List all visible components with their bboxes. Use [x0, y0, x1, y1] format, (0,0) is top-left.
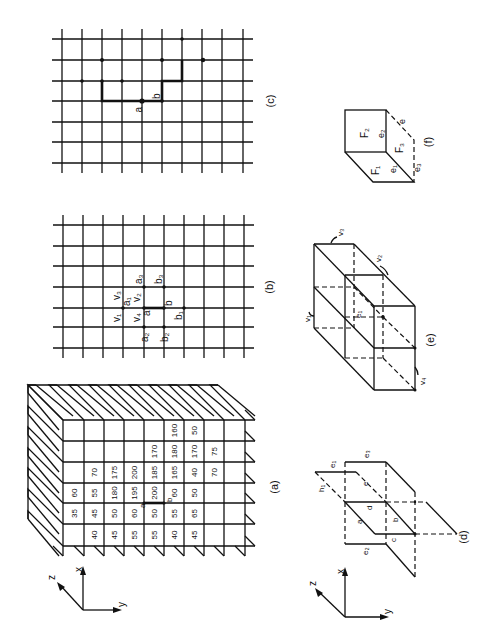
panel-c-grid-path: a b (c)	[52, 29, 276, 173]
panel-d-axis-z-label: z	[307, 581, 318, 586]
panel-a-axis-y-label: y	[116, 602, 127, 607]
panel-a-caption: (a)	[268, 480, 280, 493]
cell-value: 50	[150, 509, 159, 518]
panel-f-label-e1: e₁	[388, 165, 398, 173]
panel-e-label-v2: v₂	[374, 255, 383, 262]
fin	[194, 546, 204, 556]
panel-c-dots	[80, 37, 205, 103]
panel-b-grid-lines	[53, 215, 254, 358]
fin	[74, 546, 84, 556]
cell-value: 160	[170, 423, 179, 437]
cell-value: 70	[90, 468, 99, 477]
panel-f-label-F1: F₁	[370, 165, 381, 175]
cell-value: 50	[110, 509, 119, 518]
panel-b-label-a2: a₂	[139, 332, 150, 342]
cell-value: 180	[170, 444, 179, 458]
panel-d-label-b: b	[391, 517, 400, 522]
panel-e-voxel-block: v₃ v₂ v₁ e₁ v₄ (e)	[303, 229, 436, 392]
panel-a-label-b: b	[165, 497, 174, 502]
cell-value: 70	[210, 468, 219, 477]
panel-b-label-a1: a₁	[121, 296, 132, 306]
cell-value: 55	[170, 509, 179, 518]
fin	[134, 546, 144, 556]
cell-value: 185	[150, 465, 159, 479]
panel-f-caption: (f)	[422, 137, 434, 147]
panel-a-grid-values: 6035705545401751805045200195605517018520…	[28, 385, 280, 613]
panel-d-axes: x y z	[307, 567, 393, 620]
cell-value: 55	[130, 530, 139, 539]
cell-value: 55	[90, 488, 99, 497]
fin	[235, 546, 245, 556]
cell-value: 60	[70, 488, 79, 497]
cell-value: 40	[190, 468, 199, 477]
fin	[245, 536, 255, 546]
panel-b-label-b1: b₁	[173, 310, 184, 320]
panel-c-label-b: b	[151, 93, 162, 99]
panel-e-label-v4: v₄	[418, 378, 427, 385]
fin	[154, 546, 164, 556]
cell-value: 35	[70, 509, 79, 518]
fin	[245, 431, 255, 441]
panel-d-axis-y-label: y	[382, 609, 393, 614]
panel-b-label-v1: v₁	[111, 313, 122, 322]
cell-value: 175	[110, 465, 119, 479]
cell-value: 45	[190, 530, 199, 539]
cell-value: 180	[110, 486, 119, 500]
panel-b-caption: (b)	[263, 280, 275, 293]
cell-value: 200	[130, 465, 139, 479]
panel-d-label-e2: e₂	[361, 547, 370, 555]
cell-value: 200	[150, 486, 159, 500]
cell-value: 45	[90, 509, 99, 518]
cell-value: 170	[150, 444, 159, 458]
fin	[114, 546, 124, 556]
cell-value: 60	[130, 509, 139, 518]
panel-a-axes: x y z	[46, 566, 127, 613]
panel-d-label-c: c	[389, 538, 398, 542]
panel-d-label-e1: e₁	[328, 461, 337, 468]
panel-f-label-e: e	[397, 119, 407, 124]
panel-e-caption: (e)	[424, 333, 436, 346]
panel-b-grid-neighbors: a₃ b₃ v₃ v₂ a₁ b v₁ v₄ a b₁ a₂ b₂ (b)	[53, 215, 275, 358]
cell-value: 75	[210, 447, 219, 456]
panel-d-label-a: a	[355, 519, 364, 524]
panel-b-label-a: a	[141, 310, 152, 316]
fin	[245, 473, 255, 483]
panel-d-planes: e₃ e₁ h₁ e d a b c e₂ (d) x y z	[307, 450, 469, 620]
cell-value: 40	[90, 530, 99, 539]
cell-value: 165	[170, 465, 179, 479]
cell-value: 170	[190, 444, 199, 458]
panel-b-label-b: b	[163, 300, 174, 306]
panel-a-axis-x-label: x	[73, 567, 84, 572]
cell-value: 65	[190, 509, 199, 518]
panel-d-label-e: e	[361, 481, 370, 486]
panel-f-label-e3: e₃	[412, 163, 422, 172]
fin	[245, 514, 255, 524]
panel-a-label-a: a	[138, 503, 147, 508]
panel-d-axis-x-label: x	[335, 569, 346, 574]
panel-b-label-a3: a₃	[133, 274, 144, 284]
panel-f-label-e2: e₂	[376, 129, 386, 138]
panel-c-label-a: a	[133, 107, 144, 113]
panel-f-label-F3: F₃	[394, 143, 405, 153]
fin	[214, 546, 224, 556]
cell-value: 195	[130, 486, 139, 500]
fin	[94, 546, 104, 556]
panel-d-label-h1: h₁	[317, 485, 326, 492]
cell-value: 45	[110, 530, 119, 539]
fin	[245, 493, 255, 503]
cell-value: 40	[170, 530, 179, 539]
panel-e-label-v1: v₁	[303, 315, 312, 322]
panel-d-label-e3: e₃	[362, 450, 371, 458]
panel-b-label-b3: b₃	[153, 274, 164, 284]
cell-value: 50	[190, 426, 199, 435]
cell-value: 60	[170, 488, 179, 497]
panel-f-label-F2: F₂	[359, 128, 370, 138]
panel-f-cube-faces: F₂ e₂ F₃ e F₁ e₁ e₃ (f)	[345, 110, 434, 182]
panel-e-label-v3: v₃	[336, 229, 345, 236]
panel-a-axis-z-label: z	[46, 575, 57, 580]
panel-a-perspective-fins	[28, 385, 255, 556]
fin	[245, 452, 255, 462]
panel-c-caption: (c)	[264, 95, 276, 108]
panel-b-label-v2: v₂	[131, 293, 142, 302]
panel-d-label-d: d	[365, 506, 374, 510]
